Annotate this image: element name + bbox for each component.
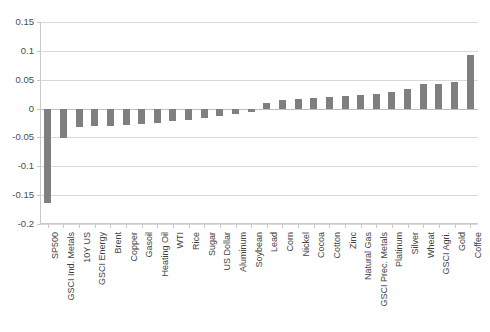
- x-axis-tick: [95, 224, 96, 228]
- bar: [326, 97, 333, 109]
- x-axis-tick-label: Cotton: [333, 232, 342, 259]
- x-axis-tick: [408, 224, 409, 228]
- bar: [295, 99, 302, 109]
- x-axis-tick: [376, 224, 377, 228]
- x-axis-tick-label: Brent: [114, 232, 123, 254]
- x-axis-tick: [329, 224, 330, 228]
- x-axis-tick: [236, 224, 237, 228]
- bar: [404, 89, 411, 109]
- bar: [232, 109, 239, 114]
- x-axis-tick: [204, 224, 205, 228]
- x-axis-tick-label: GSCI Agri.: [442, 232, 451, 275]
- x-axis-tick: [282, 224, 283, 228]
- x-axis-tick-label: 10Y US: [83, 232, 92, 263]
- x-axis-tick: [392, 224, 393, 228]
- bar: [342, 96, 349, 109]
- y-axis-tick-label: -0.05: [0, 132, 34, 142]
- x-axis-tick-label: Soybean: [255, 232, 264, 268]
- x-axis-tick-label: Copper: [130, 232, 139, 262]
- x-axis-tick: [455, 224, 456, 228]
- x-axis-tick-label: Wheat: [427, 232, 436, 258]
- x-axis-tick: [48, 224, 49, 228]
- x-axis-tick-label: GSCI Prec. Metals: [380, 232, 389, 307]
- x-axis-tick-label: Gasoil: [145, 232, 154, 258]
- x-axis-tick: [251, 224, 252, 228]
- x-axis-tick: [142, 224, 143, 228]
- x-axis-tick-label: GSCI Ind. Metals: [67, 232, 76, 301]
- bar: [451, 82, 458, 109]
- x-axis-tick-label: Natural Gas: [364, 232, 373, 280]
- y-axis-tick-label: 0.15: [0, 17, 34, 27]
- x-axis-tick: [110, 224, 111, 228]
- y-axis-tick-label: 0.05: [0, 75, 34, 85]
- x-axis-tick-label: Silver: [411, 232, 420, 255]
- x-axis-tick: [63, 224, 64, 228]
- bar: [76, 109, 83, 127]
- x-axis-tick: [439, 224, 440, 228]
- x-axis-tick: [220, 224, 221, 228]
- x-axis-tick-label: Cocoa: [317, 232, 326, 258]
- x-axis-tick-label: US Dollar: [223, 232, 232, 271]
- x-axis-tick-label: Heating Oil: [161, 232, 170, 277]
- bar: [263, 103, 270, 109]
- bar: [44, 109, 51, 203]
- x-axis-tick-label: Gold: [458, 232, 467, 251]
- gridline: [41, 224, 478, 225]
- x-axis-tick-label: Platinum: [395, 232, 404, 267]
- bar: [185, 109, 192, 121]
- x-axis-tick-label: Nickel: [302, 232, 311, 257]
- bars-layer: [40, 22, 478, 224]
- bar: [169, 109, 176, 122]
- x-axis-tick: [345, 224, 346, 228]
- x-axis-tick: [361, 224, 362, 228]
- bar: [357, 95, 364, 109]
- x-axis-tick-label: SP500: [51, 232, 60, 259]
- bar: [201, 109, 208, 118]
- x-axis-tick-label: Lead: [270, 232, 279, 252]
- bar: [154, 109, 161, 123]
- bar: [60, 109, 67, 138]
- x-axis-tick: [298, 224, 299, 228]
- x-axis-tick: [470, 224, 471, 228]
- bar: [123, 109, 130, 126]
- bar: [138, 109, 145, 125]
- y-axis-tick: [37, 224, 41, 225]
- y-axis-tick-label: -0.15: [0, 190, 34, 200]
- x-axis-tick: [126, 224, 127, 228]
- bar: [279, 100, 286, 109]
- bar: [420, 84, 427, 108]
- bar: [435, 84, 442, 109]
- bar: [107, 109, 114, 126]
- y-axis-tick-label: -0.2: [0, 219, 34, 229]
- y-axis-tick-label: 0.1: [0, 46, 34, 56]
- x-axis-tick-label: Zinc: [349, 232, 358, 249]
- x-axis-tick: [423, 224, 424, 228]
- bar: [373, 94, 380, 109]
- x-axis-tick-label: Coffee: [474, 232, 483, 258]
- x-axis-tick: [314, 224, 315, 228]
- bar: [216, 109, 223, 117]
- x-axis-tick: [79, 224, 80, 228]
- bar: [467, 55, 474, 109]
- y-axis-tick-label: -0.1: [0, 161, 34, 171]
- x-axis-tick: [267, 224, 268, 228]
- x-axis-tick: [173, 224, 174, 228]
- x-axis-tick-label: WTI: [176, 232, 185, 249]
- x-axis-tick-label: GSCI Energy: [98, 232, 107, 285]
- x-axis-tick-label: Aluminum: [239, 232, 248, 272]
- bar-chart: 0.150.10.050-0.05-0.1-0.15-0.2 SP500GSCI…: [0, 0, 490, 332]
- bar: [388, 92, 395, 108]
- bar: [91, 109, 98, 127]
- y-axis-tick-label: 0: [0, 104, 34, 114]
- x-axis-tick-label: Rice: [192, 232, 201, 250]
- bar: [248, 109, 255, 112]
- x-axis-tick: [157, 224, 158, 228]
- x-axis-tick: [189, 224, 190, 228]
- x-axis-tick-label: Corn: [286, 232, 295, 252]
- x-axis-tick-label: Sugar: [208, 232, 217, 256]
- bar: [310, 98, 317, 108]
